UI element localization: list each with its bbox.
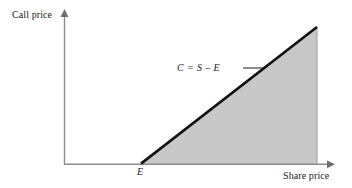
strike-price-tick-label: E (137, 167, 143, 177)
x-axis-arrowhead-icon (327, 160, 335, 168)
y-axis-arrowhead-icon (61, 9, 69, 17)
x-axis-label: Share price (283, 171, 329, 181)
y-axis-label: Call price (12, 10, 52, 20)
call-option-payoff-figure: Call price Share price E C = S – E (0, 0, 352, 188)
payoff-plot (0, 0, 352, 188)
payoff-formula-annotation: C = S – E (177, 63, 220, 73)
